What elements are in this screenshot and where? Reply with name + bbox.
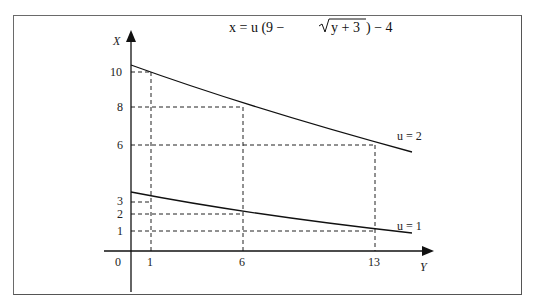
formula-title: x = u (9 − y + 3 ) − 4 <box>229 19 393 36</box>
y-axis-arrow-icon <box>126 30 136 42</box>
x-axis-arrow-icon <box>422 246 434 256</box>
function-plot: x = u (9 − y + 3 ) − 4 X Y 0 1 6 13 1 <box>0 0 535 307</box>
formula-sqrt-argument: y + 3 <box>331 20 360 35</box>
curve-u-1 <box>131 192 412 233</box>
y-tick-10: 10 <box>110 65 122 79</box>
x-tick-1: 1 <box>147 255 153 269</box>
y-tick-6: 6 <box>117 138 123 152</box>
origin-label: 0 <box>115 255 121 269</box>
x-tick-6: 6 <box>239 255 245 269</box>
y-tick-8: 8 <box>117 100 123 114</box>
curves <box>131 65 412 233</box>
curve-u-2 <box>131 65 412 152</box>
curve-label-u-2: u = 2 <box>397 129 422 143</box>
formula-suffix: ) − 4 <box>366 20 393 36</box>
curve-label-u-1: u = 1 <box>397 219 422 233</box>
y-tick-1: 1 <box>117 224 123 238</box>
y-tick-3: 3 <box>117 194 123 208</box>
x-axis-label: Y <box>420 260 428 274</box>
axes <box>104 30 434 292</box>
y-tick-2: 2 <box>117 207 123 221</box>
y-axis-label: X <box>112 34 121 48</box>
x-tick-13: 13 <box>368 255 380 269</box>
formula-prefix: x = u (9 − <box>229 20 285 36</box>
